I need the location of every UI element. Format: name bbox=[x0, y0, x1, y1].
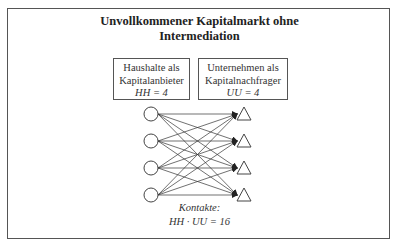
contacts-formula: HH · UU = 16 bbox=[0, 215, 399, 229]
company-triangle-icon bbox=[237, 161, 251, 174]
household-circle-icon bbox=[144, 134, 158, 148]
contacts-summary: Kontakte: HH · UU = 16 bbox=[0, 201, 399, 229]
household-circle-icon bbox=[144, 161, 158, 175]
household-circle-icon bbox=[144, 188, 158, 202]
contacts-label: Kontakte: bbox=[0, 201, 399, 215]
company-nodes bbox=[237, 107, 251, 201]
company-triangle-icon bbox=[237, 107, 251, 120]
household-circle-icon bbox=[144, 107, 158, 121]
contact-edges bbox=[158, 114, 237, 195]
household-nodes bbox=[144, 107, 158, 202]
company-triangle-icon bbox=[237, 188, 251, 201]
company-triangle-icon bbox=[237, 134, 251, 147]
